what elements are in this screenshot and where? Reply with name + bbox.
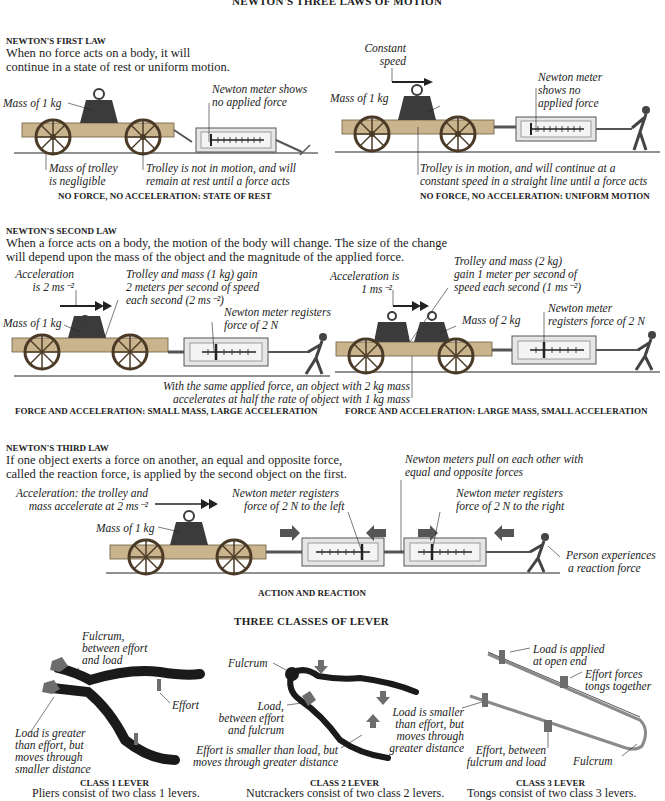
tongs-fulcrum: Fulcrum <box>573 755 613 768</box>
class3-subcaption: Tongs consist of two class 3 levers. <box>467 786 636 801</box>
tongs-effort-1: Effort, between <box>456 744 546 757</box>
tongs-effort-forces-2: tongs together <box>585 680 651 693</box>
tongs-load-2: at open end <box>533 655 587 668</box>
tongs-effort-forces-1: Effort forces <box>585 668 642 681</box>
tongs-load-1: Load is applied <box>533 643 605 656</box>
tongs-effort-2: fulcrum and load <box>456 756 546 769</box>
